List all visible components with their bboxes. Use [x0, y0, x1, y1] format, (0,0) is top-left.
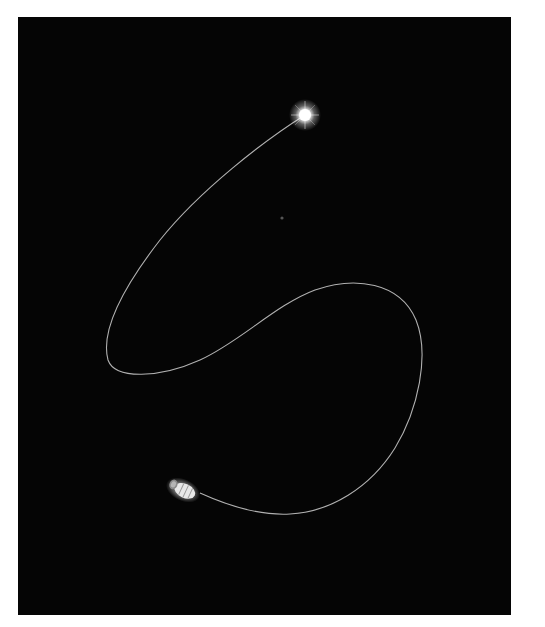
image-frame: Spacecraft trajectory curve against blac… — [0, 0, 545, 627]
bright-star-icon — [289, 99, 321, 131]
faint-dot-icon — [280, 216, 283, 219]
scene-canvas — [18, 17, 511, 615]
spacecraft-icon — [162, 472, 204, 507]
space-scene: Spacecraft trajectory curve against blac… — [18, 17, 511, 615]
trajectory-path — [107, 115, 422, 514]
